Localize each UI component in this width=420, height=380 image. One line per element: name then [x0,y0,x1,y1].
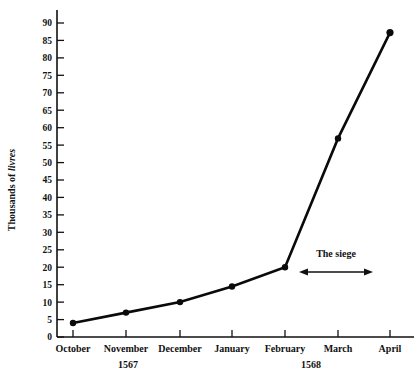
x-tick-label-february: February [265,343,306,354]
y-tick-label: 10 [43,298,53,308]
chart-page: 0 5 10 15 20 25 30 35 40 45 50 55 60 65 … [0,0,420,380]
data-point-october [70,320,76,326]
y-axis-title-italic: livres [6,149,17,171]
x-tick-label-november: November [104,343,149,354]
y-tick-label: 75 [43,71,53,81]
data-series-line [73,33,390,323]
data-point-january [229,283,235,289]
y-tick-label: 85 [43,36,53,46]
y-tick-label: 5 [47,315,52,325]
x-tick-label-march: March [324,343,353,354]
data-point-march [335,135,341,141]
y-tick-label: 40 [43,193,53,203]
y-axis-tick-labels: 0 5 10 15 20 25 30 35 40 45 50 55 60 65 … [43,18,53,342]
y-tick-label: 25 [43,245,53,255]
y-tick-label: 55 [43,141,53,151]
data-point-december [177,299,183,305]
siege-annotation-label: The siege [316,248,356,259]
y-tick-label: 50 [43,158,53,168]
y-tick-label: 65 [43,106,53,116]
y-tick-label: 70 [43,88,53,98]
siege-annotation: The siege [299,248,373,276]
x-tick-label-october: October [56,343,92,354]
x-axis-ticks [73,330,390,337]
y-tick-label: 15 [43,280,53,290]
data-point-november [123,309,129,315]
line-chart: 0 5 10 15 20 25 30 35 40 45 50 55 60 65 … [0,0,420,380]
y-tick-label: 30 [43,228,53,238]
y-axis-title: Thousands of livres [6,149,17,231]
y-tick-label: 20 [43,263,53,273]
axes-group [57,10,414,337]
y-tick-label: 60 [43,123,53,133]
data-point-february [282,264,288,270]
year-label-1568: 1568 [301,359,321,370]
y-axis-ticks [57,23,64,337]
y-tick-label: 80 [43,53,53,63]
x-axis-year-labels: 1567 1568 [118,359,321,370]
x-tick-label-april: April [379,343,402,354]
siege-arrow-head-right [364,268,373,275]
y-tick-label: 45 [43,175,53,185]
x-axis-tick-labels: October November December January Februa… [56,343,402,354]
y-tick-label: 0 [47,332,52,342]
siege-arrow-head-left [299,268,308,275]
y-axis-title-plain: Thousands of [6,171,17,231]
y-tick-label: 90 [43,18,53,28]
data-point-april [386,29,393,36]
data-points-group [70,29,394,326]
year-label-1567: 1567 [118,359,138,370]
x-tick-label-december: December [158,343,202,354]
y-tick-label: 35 [43,210,53,220]
x-tick-label-january: January [214,343,250,354]
